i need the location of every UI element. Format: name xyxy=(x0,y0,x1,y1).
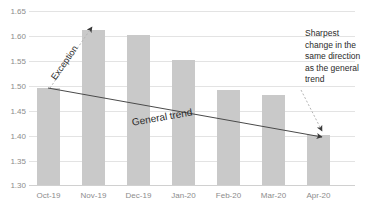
sharpest-change-label: Sharpest change in the same direction as… xyxy=(305,28,367,86)
bar-chart: 1.65 1.60 1.55 1.50 1.45 1.40 1.35 1.30 … xyxy=(0,0,369,215)
sharpest-change-arrow xyxy=(301,90,322,131)
